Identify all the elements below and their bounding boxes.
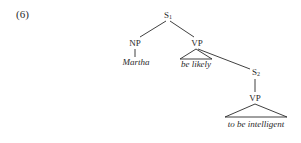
terminal-be-likely: be likely — [181, 59, 211, 69]
terminal-martha: Martha — [123, 57, 150, 67]
node-vp1: VP — [191, 38, 203, 48]
node-s1-subscript: 1 — [169, 14, 172, 20]
triangle-vp2 — [225, 104, 287, 117]
node-np: NP — [129, 38, 141, 48]
triangle-vp1 — [180, 49, 212, 59]
edge-s1-np — [140, 21, 166, 37]
node-vp2: VP — [249, 93, 261, 103]
edge-s1-vp — [170, 21, 194, 37]
node-s2-subscript: 2 — [257, 71, 260, 77]
terminal-to-be-intelligent: to be intelligent — [228, 119, 285, 129]
node-s2: S2 — [252, 67, 260, 77]
node-s1: S1 — [164, 10, 172, 20]
